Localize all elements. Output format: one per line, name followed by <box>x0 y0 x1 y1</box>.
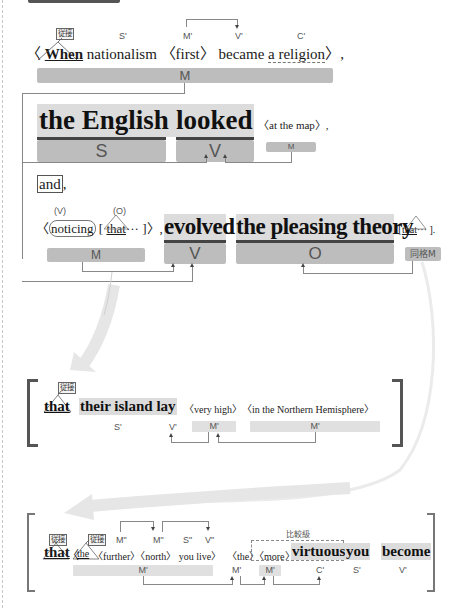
arrow-down-icon <box>206 527 210 531</box>
role-m-bar: M' <box>250 421 380 432</box>
connector <box>120 521 154 522</box>
arrow-up-icon <box>317 576 321 580</box>
connector <box>240 584 265 585</box>
connector <box>315 432 316 443</box>
role-v-prime: V' <box>399 565 407 575</box>
role-s-prime: S' <box>353 565 361 575</box>
role-m-prime: M' <box>232 565 241 575</box>
right-bracket <box>392 379 403 447</box>
connector <box>143 576 144 584</box>
connector <box>120 521 121 532</box>
modifier-northern-hemisphere: 〈in the Northern Hemisphere〉 <box>242 401 374 416</box>
role-m-double-prime: M" <box>153 535 164 545</box>
virtuous-word: virtuous <box>291 543 346 560</box>
role-m-bar: M' <box>192 421 236 432</box>
left-bracket <box>27 379 38 447</box>
role-v-prime: V' <box>169 422 177 432</box>
clause-1-body: their island lay <box>79 398 177 415</box>
more-modifier: 〈more〉 <box>254 548 295 563</box>
you-word: you <box>345 543 370 560</box>
that-word: that <box>44 544 70 561</box>
left-bracket <box>27 513 35 592</box>
that-word: that <box>44 398 70 415</box>
role-m-bar: M' <box>73 565 213 576</box>
connector <box>218 442 316 443</box>
connector <box>162 521 209 522</box>
become-word: become <box>381 543 431 560</box>
connector <box>232 580 233 585</box>
connector <box>162 521 163 532</box>
further-north-phrase: 〈further〉〈north〉 you live〉 <box>93 548 221 563</box>
the-word: the <box>77 548 89 559</box>
role-c-prime: C' <box>316 565 324 575</box>
connector <box>208 432 209 443</box>
role-s-double-prime: S" <box>183 535 192 545</box>
modifier-very-high: 〈very high〉 <box>184 401 242 416</box>
connector <box>319 580 320 585</box>
arrow-up-icon <box>230 576 234 580</box>
arrow-up-icon <box>262 576 266 580</box>
arrow-down-icon <box>151 527 155 531</box>
connector <box>171 442 209 443</box>
role-m-double-prime: M" <box>116 535 127 545</box>
role-s-prime: S' <box>114 422 122 432</box>
comparative-label: 比較級 <box>286 528 310 539</box>
flow-arrows <box>0 0 464 608</box>
role-m-bar: M' <box>259 565 281 576</box>
connector <box>264 580 265 585</box>
connector <box>143 584 233 585</box>
role-v-double-prime: V" <box>205 535 214 545</box>
connector <box>273 584 320 585</box>
